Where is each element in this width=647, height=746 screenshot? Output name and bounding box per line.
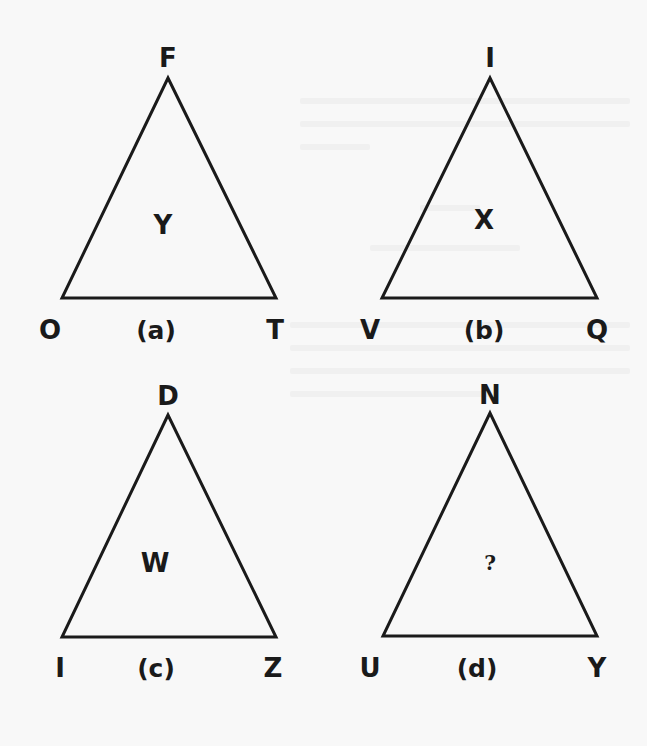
vertex-right-label: Q	[586, 317, 608, 343]
vertex-left-label: U	[359, 655, 380, 681]
vertex-left-label: I	[55, 655, 65, 681]
triangle-b	[382, 78, 597, 298]
vertex-right-label: Y	[588, 655, 607, 681]
puzzle-page: F O T (a) Y I V Q (b) X D I Z (c) W N U …	[0, 0, 647, 746]
center-letter: Y	[154, 212, 173, 238]
triangle-caption: (b)	[464, 318, 505, 343]
vertex-top-label: F	[159, 45, 177, 71]
triangle-caption: (c)	[137, 656, 175, 681]
vertex-left-label: O	[39, 317, 61, 343]
vertex-left-label: V	[360, 317, 380, 343]
vertex-top-label: I	[485, 45, 495, 71]
vertex-top-label: N	[479, 382, 501, 408]
triangle-caption: (d)	[457, 656, 498, 681]
triangle-a	[62, 78, 276, 298]
center-letter: W	[141, 550, 170, 576]
vertex-right-label: T	[266, 317, 284, 343]
triangle-caption: (a)	[136, 318, 176, 343]
triangles-figure	[0, 0, 647, 746]
triangle-d	[383, 413, 597, 636]
triangle-c	[62, 415, 276, 637]
center-letter: X	[474, 207, 494, 233]
vertex-top-label: D	[157, 383, 179, 409]
vertex-right-label: Z	[264, 655, 283, 681]
question-mark-placeholder: ?	[484, 553, 496, 573]
